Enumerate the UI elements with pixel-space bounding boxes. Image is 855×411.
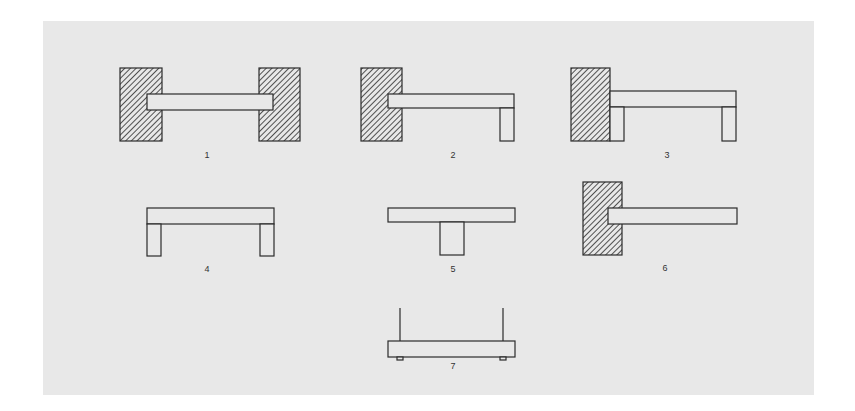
figure-label-4: 4: [197, 264, 217, 274]
beam: [147, 94, 273, 110]
figure-label-2: 2: [443, 150, 463, 160]
figure-label-3: 3: [657, 150, 677, 160]
figure-label-7: 7: [443, 361, 463, 371]
post-right: [500, 108, 514, 141]
beam: [388, 94, 514, 108]
post-center: [440, 222, 464, 255]
beam: [608, 208, 737, 224]
post-right: [260, 224, 274, 256]
beam: [388, 341, 515, 357]
figure-2: [361, 68, 514, 141]
beam: [388, 208, 515, 222]
figure-7: [388, 308, 515, 360]
post-right: [722, 107, 736, 141]
figure-4: [147, 208, 274, 256]
figure-label-1: 1: [197, 150, 217, 160]
wall-left: [571, 68, 610, 141]
figure-1: [120, 68, 300, 141]
figure-label-6: 6: [655, 263, 675, 273]
foot-right: [500, 357, 506, 360]
beam-support-diagrams: [0, 0, 855, 411]
post-left: [147, 224, 161, 256]
figure-label-5: 5: [443, 264, 463, 274]
post-left: [610, 107, 624, 141]
figure-5: [388, 208, 515, 255]
figure-3: [571, 68, 736, 141]
figure-6: [583, 182, 737, 255]
foot-left: [397, 357, 403, 360]
beam: [610, 91, 736, 107]
beam: [147, 208, 274, 224]
